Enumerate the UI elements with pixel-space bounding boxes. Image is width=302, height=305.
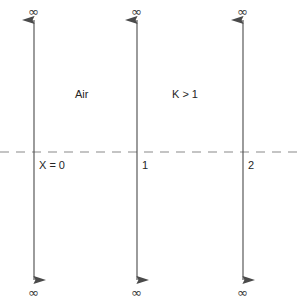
diagram-vector-layer	[0, 0, 302, 305]
infinity-top-label-1: ∞	[131, 5, 142, 18]
boundary-axis-label-1: 1	[142, 160, 148, 171]
infinity-bottom-label-0: ∞	[28, 286, 39, 299]
boundary-axis-label-0: X = 0	[39, 160, 65, 171]
diagram-canvas: ∞ ∞ ∞ ∞ ∞ ∞ X = 0 1 2 Air K > 1	[0, 0, 302, 305]
infinity-top-label-0: ∞	[28, 5, 39, 18]
infinity-bottom-label-2: ∞	[237, 286, 248, 299]
region-label-air: Air	[75, 89, 88, 100]
boundary-axis-label-2: 2	[248, 160, 254, 171]
region-label-k: K > 1	[172, 89, 198, 100]
infinity-top-label-2: ∞	[237, 5, 248, 18]
infinity-bottom-label-1: ∞	[131, 286, 142, 299]
